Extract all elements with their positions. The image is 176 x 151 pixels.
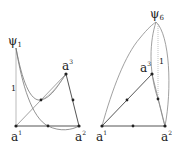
left-curve-psi-a3	[16, 48, 66, 100]
right-label-a2: a2	[161, 131, 172, 143]
right-point-a2	[163, 124, 166, 127]
left-point-a2	[77, 124, 80, 127]
right-midpoint-a2-a3	[157, 98, 160, 101]
left-label-a1: a1	[11, 131, 22, 143]
right-midpoint-a1-a3	[126, 99, 129, 102]
right-figure	[100, 22, 169, 128]
apex-index: 6	[159, 14, 163, 22]
vertex-index: 2	[82, 129, 86, 136]
diagram-canvas	[0, 0, 176, 151]
vertex-index: 2	[168, 129, 172, 136]
right-apex-label: ψ6	[150, 8, 164, 20]
apex-base: ψ	[8, 34, 17, 48]
vertex-index: 1	[18, 129, 22, 136]
left-point-a1	[14, 124, 17, 127]
right-edge-label: 1	[159, 58, 164, 66]
right-label-a3: a3	[140, 62, 151, 74]
left-apex-label: ψ1	[8, 35, 22, 47]
right-curve-psi-a1	[102, 22, 156, 126]
left-label-a3: a3	[62, 60, 73, 72]
vertex-index: 3	[69, 58, 73, 65]
right-point-a1	[100, 124, 103, 127]
left-midpoint-a1-a3	[40, 99, 43, 102]
apex-index: 1	[17, 41, 21, 49]
left-midpoint-a2-a3	[72, 99, 75, 102]
apex-base: ψ	[150, 7, 159, 21]
left-edge-label: 1	[11, 85, 16, 93]
right-label-a1: a1	[96, 131, 107, 143]
left-label-a2: a2	[75, 131, 86, 143]
vertex-index: 3	[147, 60, 151, 67]
vertex-index: 1	[103, 129, 107, 136]
left-midpoint-a1-a2	[47, 125, 50, 128]
right-midpoint-a1-a2	[132, 125, 135, 128]
